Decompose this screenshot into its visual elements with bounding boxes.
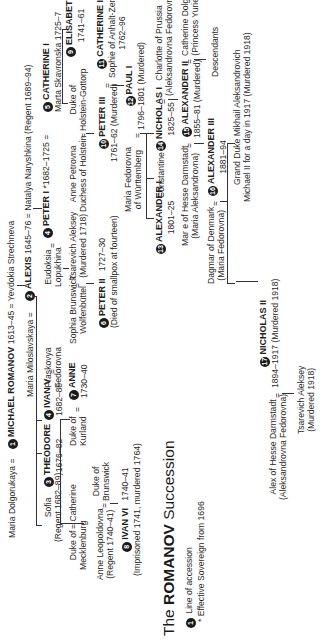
marriage-symbol: = [6, 303, 16, 308]
name: PETER II [97, 278, 107, 316]
person-peter-iii: 10PETER III 1761–62 (Murdered) [97, 84, 119, 162]
person-marie-of-hesse: Mar e of Hesse Darmstadt (Maria Aleksand… [180, 146, 200, 246]
person-alexander-iii: 16ALEXANDER III 1881–94 [206, 118, 228, 196]
name-line2: Lopukhina [53, 247, 63, 287]
person-peter-ii: 6PETER II 1727–30 (Died of smallpox at f… [97, 215, 119, 328]
accession-number-badge: 6 [99, 318, 109, 328]
name: PETER III [97, 97, 107, 137]
note: (Murdered) [136, 42, 146, 85]
name: Praskovya [43, 347, 53, 388]
person-anne: 7ANNE 1730–40 [67, 362, 89, 400]
descent-line [194, 59, 206, 60]
name: NICHOLAS II [258, 300, 268, 355]
name: CATHERINE I [41, 43, 51, 100]
name: Eudoksia [43, 247, 53, 287]
accession-number-badge: 15 [182, 127, 192, 137]
marriage-symbol: = [72, 407, 82, 412]
name: ANNE [67, 362, 77, 388]
dates: 1676–82 [54, 424, 64, 487]
accession-number-badge: 11 [97, 59, 107, 69]
note: (Regent 1740–41) [105, 508, 115, 580]
name: Dagmar of Denmark [206, 207, 216, 284]
person-catherine-ii: 11CATHERINE II Sophie of Anhalt-Zerbst 1… [95, 0, 127, 78]
name: Duke of [68, 416, 78, 446]
accession-number-badge: 17 [260, 357, 270, 367]
person-duke-brunswick: Duke of Brunswick [91, 462, 111, 501]
name: THEODORE [42, 424, 52, 475]
name: Tsarevich Aleksey [68, 212, 78, 280]
note: (Murdered) [192, 60, 202, 103]
accession-number-badge: 12 [126, 96, 136, 106]
dates: 1740–41 [120, 467, 130, 500]
name-line2: (Maria Fedorovna) [216, 207, 226, 284]
name: Tsarevich Aleksey [296, 366, 306, 434]
dates: 1727–30 [97, 238, 107, 271]
name: Catherine [68, 484, 78, 521]
accession-number-badge: 8 [122, 542, 132, 552]
descent-line [168, 99, 178, 100]
accession-number-badge: 9 [66, 47, 76, 57]
name-line2: Holstein-Gottorp [78, 68, 88, 131]
descent-line [146, 133, 154, 134]
accession-number-badge: 3 [44, 477, 54, 487]
name-line2: Kurland [78, 416, 88, 446]
accession-number-badge: 10 [99, 139, 109, 149]
marriage-symbol: = [7, 458, 17, 463]
accession-number-badge: 7 [69, 390, 79, 400]
dates: 1801–25 [166, 181, 176, 254]
person-peter-i: 4PETER I *1682–1725 = [41, 135, 53, 238]
descent-line [60, 523, 84, 524]
name-line2: (Princess Yurievskaya) [190, 0, 200, 56]
person-grand-duke-mikhail: Grand Duke Mikhail Aleksandrovich Michae… [232, 32, 252, 202]
person-alexander-ii: 15ALEXANDER II 1855–81 (Murdered) [180, 60, 202, 138]
descent-line [282, 393, 294, 394]
sibling-bar [62, 30, 63, 104]
note: (Imprisoned 1741, murdered 1764) [132, 443, 142, 576]
name: ALEXIS [23, 256, 33, 289]
person-anne-leopoldovna: Anne Leopoldovna (Regent 1740–41) [95, 508, 115, 580]
marriage-symbol: = [23, 213, 33, 218]
person-duke-holstein: Duke of Holstein-Gottorp [68, 68, 88, 131]
name: ALEXANDER III [206, 118, 216, 184]
name: PAUL I [124, 66, 134, 95]
descent-line [86, 283, 94, 284]
marriage-symbol: = [184, 59, 194, 64]
person-nicholas-i: 14NICHOLAS I 1825–55 [154, 87, 176, 151]
person-alex-of-hesse: Alex of Hesse Darmstadt (Aleksandrovna F… [268, 394, 288, 500]
descent-line [36, 420, 42, 421]
title-suffix: Succession [160, 440, 177, 524]
person-charlotte-of-prussia: Charlotte of Prussia (Aleksandrovna Fedo… [154, 0, 174, 96]
name-line2: Fedorovna [53, 347, 63, 388]
accession-number-icon: 1 [186, 618, 196, 628]
romanov-family-tree: Maria Dolgorukaya = 1MICHAEL ROMANOV 161… [0, 0, 329, 644]
descent-line [194, 143, 204, 144]
accession-number-badge: 4 [43, 228, 53, 238]
marriage-symbol: = [184, 143, 194, 148]
descent-line [227, 283, 235, 284]
marriage-symbol: = [41, 135, 51, 140]
dates: 1796–1801 [136, 87, 146, 130]
dates: 1855–81 [192, 105, 202, 138]
dates: 1741–61 [76, 0, 86, 57]
person-anne-petrovna: Anne Petrovna Duchess of Holstein [68, 136, 88, 212]
descent-line [110, 503, 118, 504]
dates: *1682–1725 [41, 142, 51, 188]
name-line2: of Württemberg [133, 147, 143, 212]
marriage-symbol: = [99, 503, 109, 508]
person-ivan-vi: 8IVAN VI 1740–41 (Imprisoned 1741, murde… [120, 443, 142, 576]
sibling-bar [36, 297, 37, 526]
name: Mar e of Hesse Darmstadt [180, 146, 190, 246]
person-maria-fedorovna-wurttemberg: Maria Fedorovna of Württemberg [123, 147, 143, 212]
note: Sophie of Anhalt-Zerbst [107, 0, 117, 78]
name-line2: (Aleksandrovna Fedorovna) [164, 0, 174, 96]
marriage-symbol: = [272, 393, 282, 398]
name: PETER I [41, 191, 51, 226]
marriage-symbol: = [210, 201, 220, 206]
dates: 1613–45 [6, 311, 16, 344]
accession-number-badge: 13 [156, 244, 166, 254]
spouse-name: Natalya Naryshkina (Regent 1689–94) [23, 65, 33, 211]
name-line2: Mecklenburg [78, 521, 88, 570]
person-nicholas-ii: 17NICHOLAS II 1894–1917 (Murdered 1918) [258, 279, 280, 388]
marriage-symbol: = [68, 524, 78, 529]
person-tsarevich-aleksey-1918: Tsarevich Aleksey (Murdered 1918) [296, 366, 316, 434]
